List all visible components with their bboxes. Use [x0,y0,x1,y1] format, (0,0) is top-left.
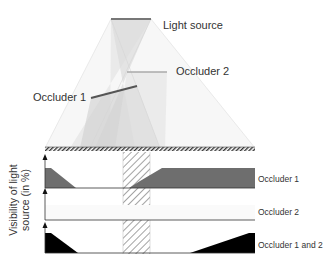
occluder-1-label: Occluder 1 [33,91,86,103]
occluder-2-label: Occluder 2 [176,65,229,77]
graph-label-occluder-2: Occluder 2 [258,207,299,217]
graph-label-occluder-1: Occluder 1 [258,174,299,184]
shadow-visibility-diagram [0,0,327,267]
graph-label-occluder-1-and-2: Occluder 1 and 2 [258,240,323,250]
light-source-label: Light source [163,19,223,31]
ground-surface [45,147,255,151]
light-cones [45,19,255,148]
hatched-band [123,152,150,254]
y-axis-label-line2: source (in %) [19,145,31,255]
y-axis-label-line1: Visibility of light [7,145,19,255]
y-axis-label: Visibility of light source (in %) [7,145,31,255]
